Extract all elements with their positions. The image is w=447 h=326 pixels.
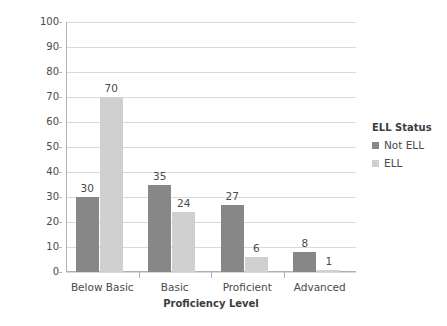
y-axis-tick-mark xyxy=(58,22,62,23)
bar-slot xyxy=(172,22,195,272)
x-axis-category-labels: Below BasicBasicProficientAdvanced xyxy=(66,280,356,296)
category-separator xyxy=(139,272,140,278)
y-axis-tick-mark xyxy=(58,172,62,173)
y-axis-tick-mark xyxy=(58,47,62,48)
category-separator xyxy=(211,272,212,278)
x-axis-category-label: Advanced xyxy=(284,280,357,294)
plot-area: 3070352427681 xyxy=(66,22,356,272)
y-axis-line xyxy=(66,22,67,272)
y-axis-tick-labels: 0102030405060708090100 xyxy=(30,15,62,279)
y-axis-tick-mark xyxy=(58,72,62,73)
bar[interactable] xyxy=(221,205,244,273)
legend-swatch-icon xyxy=(372,160,379,167)
bar-slot xyxy=(221,22,244,272)
x-axis-title: Proficiency Level xyxy=(66,298,356,309)
x-axis-category-label: Basic xyxy=(139,280,212,294)
bar-chart: Percent at Level 0102030405060708090100 … xyxy=(0,0,447,326)
y-axis-tick-mark xyxy=(58,272,62,273)
bar-slot xyxy=(100,22,123,272)
y-axis-tick-mark xyxy=(58,122,62,123)
legend-item-label: ELL xyxy=(384,157,402,169)
legend-item[interactable]: Not ELL xyxy=(372,139,444,151)
bar-slot xyxy=(148,22,171,272)
bar-slot xyxy=(293,22,316,272)
y-axis-tick-mark xyxy=(58,222,62,223)
bar-value-label: 1 xyxy=(309,255,349,267)
y-axis-tick-mark xyxy=(58,97,62,98)
x-axis-category-label: Proficient xyxy=(211,280,284,294)
legend-title: ELL Status xyxy=(372,122,444,133)
bar[interactable] xyxy=(317,270,340,273)
bar[interactable] xyxy=(172,212,195,272)
legend-swatch-icon xyxy=(372,142,379,149)
bar-slot xyxy=(245,22,268,272)
bar-value-label: 70 xyxy=(91,82,131,94)
bar[interactable] xyxy=(245,257,268,272)
category-separator xyxy=(284,272,285,278)
legend-items: Not ELLELL xyxy=(372,139,444,169)
y-axis-tick-mark xyxy=(58,247,62,248)
legend-item[interactable]: ELL xyxy=(372,157,444,169)
legend: ELL Status Not ELLELL xyxy=(372,122,444,175)
y-axis-tick-label: 100 xyxy=(40,16,59,28)
bar[interactable] xyxy=(100,97,123,272)
bar-value-label: 24 xyxy=(164,197,204,209)
y-axis-tick-mark xyxy=(58,147,62,148)
x-axis-category-label: Below Basic xyxy=(66,280,139,294)
bar-value-label: 6 xyxy=(236,242,276,254)
bar[interactable] xyxy=(76,197,99,272)
y-axis-tick-mark xyxy=(58,197,62,198)
bar-slot xyxy=(317,22,340,272)
legend-item-label: Not ELL xyxy=(384,139,424,151)
bar-slot xyxy=(76,22,99,272)
